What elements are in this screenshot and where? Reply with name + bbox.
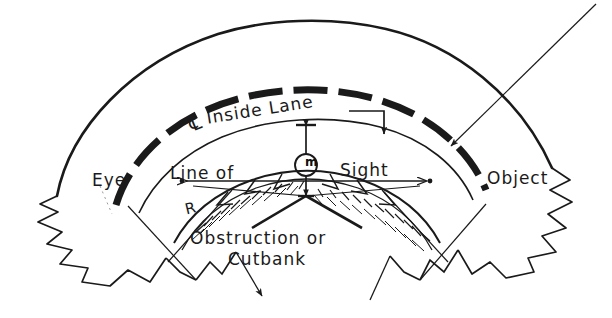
label-line-of-sight-right: Sight	[340, 160, 389, 180]
external-leader	[451, 4, 596, 146]
label-line-of-sight-left: Line of	[170, 163, 234, 183]
label-object: Object	[487, 168, 548, 188]
label-obstruction: Obstruction or	[190, 228, 326, 248]
break-line-left	[38, 196, 166, 286]
break-line-bottom-left	[166, 252, 236, 280]
label-eye: Eye	[92, 170, 126, 190]
object-point	[428, 179, 433, 184]
label-middle-ordinate: m	[305, 155, 318, 169]
label-cutbank: Cutbank	[228, 249, 306, 269]
diagram-canvas: Eye Object ℄ Inside Lane Line of Sight O…	[0, 0, 612, 318]
construction-line	[100, 186, 112, 214]
cutbank-leader-right	[370, 256, 390, 300]
